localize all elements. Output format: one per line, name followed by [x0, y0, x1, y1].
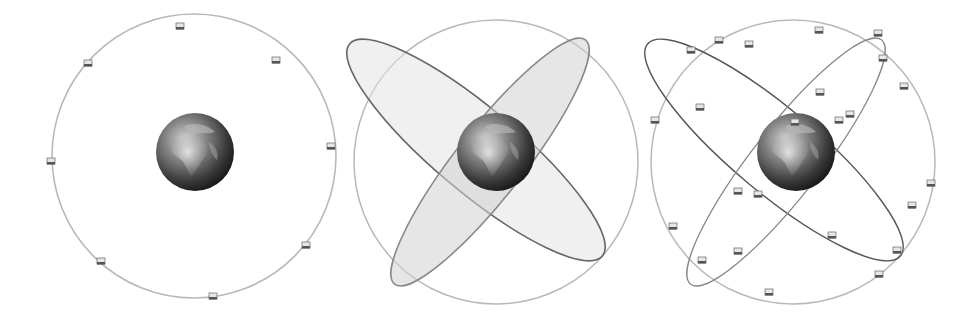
orbit-diagram [0, 0, 975, 314]
panel-single-orbit [47, 14, 336, 300]
panel-full-constellation [621, 12, 935, 305]
earth-icon [156, 113, 234, 191]
earth-icon [457, 113, 535, 191]
panel-orbital-planes [323, 12, 638, 305]
diagram-canvas [0, 0, 975, 314]
